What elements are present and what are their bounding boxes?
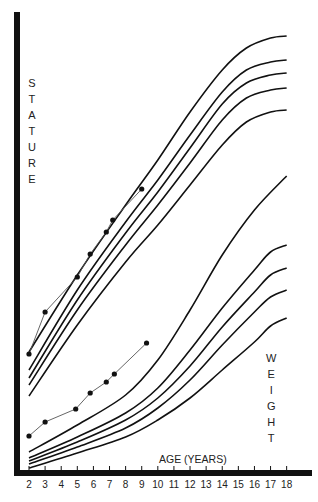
weight-letter: G	[267, 398, 276, 414]
weight-letter: I	[270, 382, 273, 398]
weight-curve-2	[29, 245, 287, 458]
percentile-curves	[29, 36, 287, 468]
child-stature-point	[88, 251, 93, 256]
x-tick-label: 9	[139, 479, 145, 490]
x-tick-label: 4	[58, 479, 64, 490]
stature-letter: E	[28, 171, 35, 187]
x-tick-label: 10	[152, 479, 163, 490]
child-weight-point	[26, 433, 31, 438]
x-tick-label: 12	[184, 479, 195, 490]
x-axis-title: AGE (YEARS)	[159, 453, 227, 465]
x-axis-ticks	[29, 466, 287, 470]
stature-letter: T	[29, 123, 36, 139]
stature-letter: R	[28, 155, 36, 171]
child-weight-point	[43, 419, 48, 424]
stature-letter: U	[28, 139, 36, 155]
x-tick-label: 2	[26, 479, 32, 490]
weight-letter: H	[267, 414, 275, 430]
child-stature-point	[75, 274, 80, 279]
x-tick-label: 18	[281, 479, 292, 490]
x-tick-label: 17	[265, 479, 276, 490]
stature-letter: T	[29, 91, 36, 107]
x-tick-label: 5	[75, 479, 81, 490]
child-weight-point	[104, 379, 109, 384]
weight-label: WEIGHT	[266, 350, 276, 446]
child-weight-point	[112, 371, 117, 376]
child-stature-point	[139, 186, 144, 191]
stature-label: STATURE	[28, 75, 36, 187]
x-tick-label: 16	[249, 479, 260, 490]
child-data-series	[26, 186, 149, 438]
x-tick-label: 3	[42, 479, 48, 490]
weight-curve-3	[29, 268, 287, 461]
child-stature-point	[110, 217, 115, 222]
weight-letter: W	[266, 350, 276, 366]
x-tick-label: 15	[233, 479, 244, 490]
child-stature-point	[43, 309, 48, 314]
x-axis-bar	[14, 470, 312, 476]
stature-letter: S	[28, 75, 35, 91]
x-tick-label: 6	[91, 479, 97, 490]
child-weight-point	[73, 406, 78, 411]
x-tick-label: 11	[169, 479, 179, 490]
stature-curve-5	[29, 110, 287, 396]
stature-letter: A	[28, 107, 35, 123]
child-stature-line	[29, 189, 142, 354]
stature-curve-4	[29, 88, 287, 385]
child-stature-point	[26, 351, 31, 356]
weight-letter: T	[268, 430, 275, 446]
y-axis-bar	[14, 12, 20, 476]
child-weight-point	[88, 390, 93, 395]
x-tick-label: 13	[201, 479, 212, 490]
child-stature-point	[104, 229, 109, 234]
x-tick-label: 14	[217, 479, 228, 490]
x-tick-label: 8	[123, 479, 129, 490]
child-weight-point	[144, 340, 149, 345]
x-tick-label: 7	[107, 479, 113, 490]
weight-letter: E	[268, 366, 275, 382]
